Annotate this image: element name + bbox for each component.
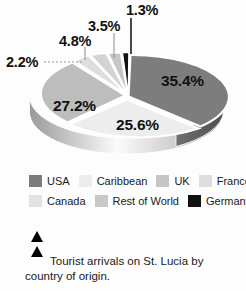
legend-label-uk: UK [174,175,189,187]
legend-swatch-rest-of-world [95,195,108,207]
pie-chart-svg [0,0,246,168]
pie-chart-figure: 35.4% 25.6% 27.2% 2.2% 4.8% 3.5% 1.3% US… [0,0,246,291]
legend-swatch-uk [156,175,169,187]
legend-label-usa: USA [47,175,70,187]
triangle-up-icon-top [31,231,43,242]
chart-area: 35.4% 25.6% 27.2% 2.2% 4.8% 3.5% 1.3% [0,0,246,168]
caption-line-1: Tourist arrivals on St. Lucia by [50,254,240,269]
legend-swatch-usa [29,175,42,187]
caption-text: Tourist arrivals on St. Lucia by country… [25,254,240,284]
pie-label-uk: 3.5% [88,18,120,34]
legend-label-caribbean: Caribbean [97,175,148,187]
legend-item-caribbean[interactable]: Caribbean [79,175,148,187]
pie-label-caribbean: 25.6% [116,116,159,134]
legend-item-germany[interactable]: Germany [188,195,246,207]
legend-swatch-caribbean [79,175,92,187]
legend-swatch-france [199,175,212,187]
legend-item-canada[interactable]: Canada [29,195,86,207]
legend-label-rest-of-world: Rest of World [113,195,179,207]
pie-label-germany: 1.3% [126,2,158,18]
figure-caption: Tourist arrivals on St. Lucia by country… [0,228,246,291]
legend-item-usa[interactable]: USA [29,175,70,187]
legend-item-rest-of-world[interactable]: Rest of World [95,195,179,207]
pie-label-usa: 35.4% [161,72,204,90]
legend-item-uk[interactable]: UK [156,175,189,187]
chart-legend: USA Caribbean UK France Canada Res [0,168,246,218]
legend-row-2: Canada Rest of World Germany [29,193,246,209]
legend-label-germany: Germany [206,195,246,207]
legend-row-1: USA Caribbean UK France [29,173,246,189]
legend-item-france[interactable]: France [199,175,246,187]
pie-label-rest-of-world: 4.8% [59,33,91,49]
legend-swatch-canada [29,195,42,207]
legend-label-france: France [217,175,246,187]
legend-label-canada: Canada [47,195,86,207]
legend-swatch-germany [188,195,201,207]
pie-label-canada: 27.2% [53,97,96,115]
pie-label-france: 2.2% [6,54,38,70]
caption-line-2: country of origin. [25,269,240,284]
